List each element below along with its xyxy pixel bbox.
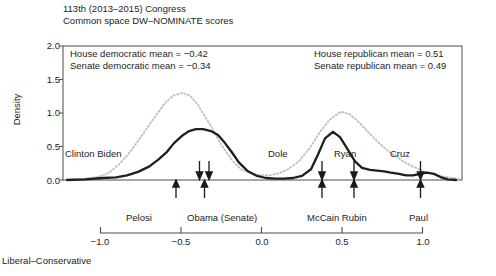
marker-up-mccain [319,180,325,198]
marker-up-obama [201,180,207,198]
marker-down-house-democratic [196,161,202,180]
x-tick-label-1.0: 1.0 [403,236,443,247]
x-tick-label-0.5: 0.5 [322,236,362,247]
plot-area [0,0,496,276]
inline-label-cruz: Cruz [390,148,410,159]
annotation-senate-democratic: Senate democratic mean = −0.34 [70,60,210,71]
axis-label-pelosi: Pelosi [126,212,152,223]
inline-label-ryan: Ryan [334,148,356,159]
mean-markers-up [173,180,424,198]
x-axis [100,227,423,233]
x-tick-label-0.0: 0.0 [242,236,282,247]
x-axis-caption: Liberal–Conservative [2,255,91,266]
axis-label-mccain-rubin: McCain Rubin [307,212,367,223]
annotation-house-democratic: House democratic mean = −0.42 [70,48,208,59]
x-tick-label--1.0: −1.0 [80,236,120,247]
annotation-house-republican: House republican mean = 0.51 [314,48,444,59]
annotation-senate-republican: Senate republican mean = 0.49 [314,60,446,71]
marker-down-senate-democratic [206,161,212,180]
axis-label-paul: Paul [409,212,428,223]
x-tick-label--0.5: −0.5 [161,236,201,247]
inline-label-dole: Dole [268,148,288,159]
marker-up-pelosi [173,180,179,198]
marker-up-rubin [351,180,357,198]
marker-up-paul [417,180,423,198]
senate-density-curve [67,93,460,180]
marker-down-house-republican [319,161,325,180]
y-axis-ticks [59,46,63,180]
figure-canvas: 113th (2013–2015) Congress Common space … [0,0,496,276]
inline-label-clinton-biden: Clinton Biden [65,148,122,159]
axis-label-obama: Obama (Senate) [187,212,257,223]
